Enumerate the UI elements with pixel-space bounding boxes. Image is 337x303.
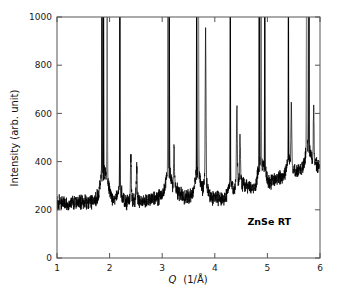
diffraction-plot: 123456 02004006008001000 Q(1/Å) Intensit…: [0, 0, 337, 303]
x-tick-label: 4: [212, 263, 218, 273]
x-tick-label: 2: [107, 263, 113, 273]
y-tick-label: 0: [46, 253, 52, 263]
x-tick-label: 1: [54, 263, 60, 273]
x-tick-label: 5: [265, 263, 271, 273]
y-tick-label: 200: [35, 205, 52, 215]
y-axis-title: Intensity (arb. unit): [9, 89, 20, 186]
x-axis-title: Q(1/Å): [168, 273, 207, 285]
x-axis-title-units: (1/Å): [183, 273, 207, 285]
y-tick-label: 600: [35, 109, 52, 119]
xrd-figure: 123456 02004006008001000 Q(1/Å) Intensit…: [0, 0, 337, 303]
y-tick-label: 800: [35, 60, 52, 70]
y-tick-label: 1000: [29, 12, 52, 22]
x-tick-label: 3: [159, 263, 165, 273]
sample-label: ZnSe RT: [247, 216, 291, 227]
x-tick-label: 6: [317, 263, 323, 273]
x-axis-title-symbol: Q: [168, 274, 176, 285]
y-tick-label: 400: [35, 157, 52, 167]
